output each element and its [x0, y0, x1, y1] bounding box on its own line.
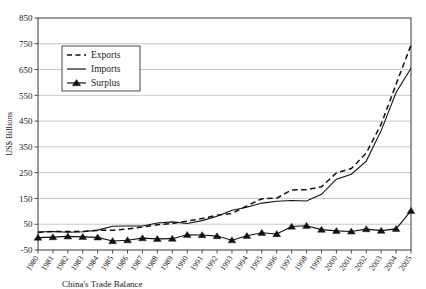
x-tick-label: 2001 — [338, 254, 354, 272]
series-line-imports — [38, 68, 411, 232]
x-tick-label: 1995 — [248, 254, 264, 272]
legend-label-exports: Exports — [91, 50, 121, 60]
y-tick-label: 650 — [19, 65, 33, 75]
x-tick-label: 2000 — [323, 254, 339, 272]
legend-label-imports: Imports — [91, 64, 121, 74]
x-tick-label: 1986 — [114, 254, 130, 272]
surplus-marker — [407, 207, 415, 213]
chart-caption: China's Trade Balance — [62, 279, 143, 289]
y-tick-label: 850 — [19, 13, 33, 23]
trade-balance-chart: -5050150250350450550650750850 1980198119… — [0, 0, 426, 289]
x-tick-label: 2003 — [367, 254, 383, 272]
y-axis-ticks-group: -5050150250350450550650750850 — [19, 13, 38, 255]
x-tick-label: 1990 — [173, 254, 189, 272]
x-tick-label: 1981 — [39, 254, 55, 272]
y-tick-label: 150 — [19, 194, 33, 204]
y-tick-label: 50 — [24, 219, 34, 229]
y-tick-label: 350 — [19, 142, 33, 152]
x-tick-label: 1991 — [188, 254, 204, 272]
surplus-marker — [258, 229, 266, 235]
x-tick-label: 1996 — [263, 254, 279, 272]
x-tick-label: 1993 — [218, 254, 234, 272]
x-tick-label: 2004 — [382, 254, 398, 272]
surplus-marker — [362, 226, 370, 232]
chart-legend: ExportsImportsSurplus — [62, 46, 140, 91]
y-axis-title: US$ Billions — [4, 112, 14, 156]
y-tick-label: 250 — [19, 168, 33, 178]
x-tick-label: 2005 — [397, 254, 413, 272]
x-axis-ticks-group: 1980198119821983198419851986198719881989… — [24, 250, 413, 272]
x-tick-label: 1997 — [278, 254, 294, 272]
x-tick-label: 1988 — [144, 254, 160, 272]
x-tick-label: 1982 — [54, 254, 70, 272]
x-tick-label: 1987 — [129, 254, 145, 272]
x-tick-label: 1980 — [24, 254, 40, 272]
series-line-surplus — [38, 211, 411, 241]
x-tick-label: 2002 — [352, 254, 368, 272]
y-tick-label: 750 — [19, 39, 33, 49]
legend-label-surplus: Surplus — [91, 78, 120, 88]
y-tick-label: 550 — [19, 91, 33, 101]
y-tick-label: -50 — [21, 245, 33, 255]
chart-container: -5050150250350450550650750850 1980198119… — [0, 0, 426, 289]
x-tick-label: 1983 — [69, 254, 85, 272]
x-tick-label: 1994 — [233, 254, 249, 272]
y-tick-label: 450 — [19, 116, 33, 126]
x-tick-label: 1985 — [99, 254, 115, 272]
x-tick-label: 1992 — [203, 254, 219, 272]
x-tick-label: 1989 — [159, 254, 175, 272]
x-tick-label: 1998 — [293, 254, 309, 272]
x-tick-label: 1999 — [308, 254, 324, 272]
x-tick-label: 1984 — [84, 254, 100, 272]
